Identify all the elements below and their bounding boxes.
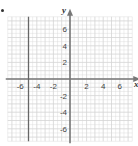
svg-text:6: 6 [118,82,123,91]
x-axis-label: x [133,79,138,89]
svg-text:4: 4 [63,42,68,51]
svg-text:-6: -6 [60,125,68,134]
coordinate-plane: -6-4-2246642-2-4-6 x y [0,0,138,146]
svg-text:4: 4 [101,82,106,91]
svg-text:-2: -2 [50,82,58,91]
y-axis-label: y [61,5,67,15]
svg-text:-4: -4 [60,108,68,117]
svg-text:6: 6 [63,25,68,34]
svg-text:-2: -2 [60,92,68,101]
svg-text:-4: -4 [33,82,41,91]
svg-text:2: 2 [84,82,89,91]
svg-text:2: 2 [63,58,68,67]
svg-text:-6: -6 [17,82,25,91]
